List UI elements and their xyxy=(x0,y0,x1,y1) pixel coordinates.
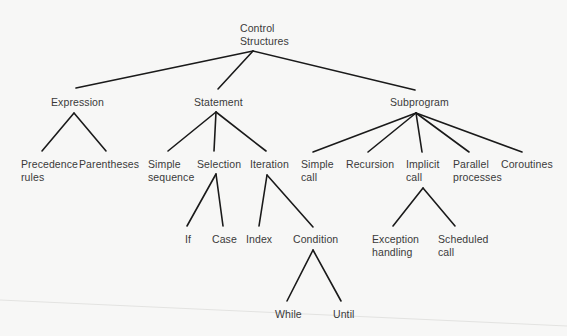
node-iteration: Iteration xyxy=(250,158,289,171)
node-precedence-rules: Precedence rules xyxy=(21,158,78,183)
edge-statement-to-iteration xyxy=(216,112,266,151)
node-parallel-processes: Parallel processes xyxy=(453,158,502,183)
node-recursion: Recursion xyxy=(346,158,394,171)
node-if: If xyxy=(185,233,191,246)
edge-root-to-expression xyxy=(76,51,253,88)
edge-subprogram-to-implicit_call xyxy=(416,113,422,152)
edge-condition-to-until xyxy=(313,250,341,301)
node-coroutines: Coroutines xyxy=(501,158,553,171)
node-implicit-call: Implicit call xyxy=(406,158,439,183)
edge-expression-to-precedence_rules xyxy=(42,113,74,151)
edge-statement-to-selection xyxy=(214,112,216,151)
node-expression: Expression xyxy=(51,96,104,109)
node-until: Until xyxy=(333,308,355,321)
edge-group xyxy=(42,51,522,301)
edge-subprogram-to-simple_call xyxy=(313,113,416,152)
node-statement: Statement xyxy=(194,96,243,109)
node-exception-handling: Exception handling xyxy=(372,233,419,258)
edge-statement-to-simple_sequence xyxy=(168,112,216,151)
edge-condition-to-while xyxy=(287,250,313,301)
edge-subprogram-to-parallel_processes xyxy=(416,113,469,152)
edge-implicit_call-to-exception_handling xyxy=(393,188,423,226)
node-while: While xyxy=(275,308,302,321)
node-simple-sequence: Simple sequence xyxy=(148,158,194,183)
edge-subprogram-to-recursion xyxy=(368,113,416,152)
node-selection: Selection xyxy=(197,158,241,171)
edge-expression-to-parentheses xyxy=(74,113,106,151)
edge-implicit_call-to-scheduled_call xyxy=(423,188,455,226)
edge-selection-to-case xyxy=(216,174,223,226)
edge-subprogram-to-coroutines xyxy=(416,113,522,152)
node-scheduled-call: Scheduled call xyxy=(438,233,489,258)
control-structures-tree: Control Structures Expression Statement … xyxy=(0,0,567,336)
node-simple-call: Simple call xyxy=(301,158,334,183)
edge-root-to-subprogram xyxy=(253,51,415,90)
node-root: Control Structures xyxy=(240,22,289,47)
node-case: Case xyxy=(212,233,237,246)
node-index: Index xyxy=(246,233,272,246)
node-subprogram: Subprogram xyxy=(390,96,449,109)
node-parentheses: Parentheses xyxy=(79,158,139,171)
edge-iteration-to-index xyxy=(259,175,267,226)
node-condition: Condition xyxy=(293,233,338,246)
